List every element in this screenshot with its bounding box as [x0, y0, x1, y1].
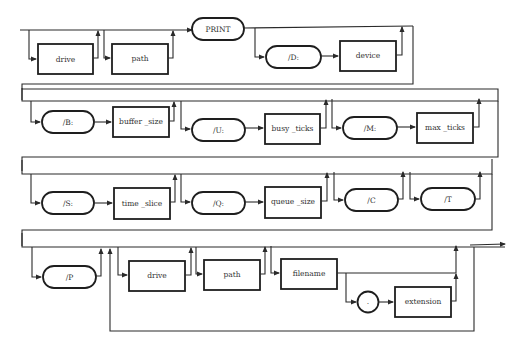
- r4-drive-branch: [118, 247, 127, 275]
- d-branch: [255, 28, 264, 57]
- path-branch: [104, 30, 110, 58]
- extension-label: extension: [405, 297, 442, 306]
- ext-branch: [346, 273, 356, 302]
- t-branch: [410, 172, 419, 199]
- row4-frame-top: [22, 233, 505, 247]
- drive-label: drive: [56, 55, 76, 64]
- filename-branch: [271, 246, 279, 273]
- device-label: device: [356, 51, 381, 60]
- buffer-size-label: buffer _size: [119, 117, 163, 126]
- row-3: /S: time _slice /Q: queue _size /C /T: [22, 159, 492, 246]
- q-switch-label: /Q:: [213, 199, 224, 208]
- time-slice-label: time _slice: [122, 199, 163, 208]
- s-switch-label: /S:: [63, 199, 73, 208]
- path-label: path: [131, 54, 148, 63]
- row2-frame-top: [22, 88, 498, 101]
- p-switch-label: /P: [66, 273, 74, 282]
- row-1: drive path PRINT /D: device: [20, 18, 413, 100]
- b-switch-label: /B:: [63, 118, 74, 127]
- r4-drive-label: drive: [147, 271, 167, 280]
- row3-frame-top: [22, 159, 492, 174]
- max-ticks-label: max _ticks: [425, 123, 465, 132]
- exit-arrow: [470, 244, 505, 245]
- print-syntax-diagram: drive path PRINT /D: device /B: buff: [0, 0, 517, 350]
- row-4: /P drive path filename . extension: [22, 233, 505, 331]
- c-switch-label: /C: [367, 196, 376, 205]
- q-branch: [181, 174, 190, 202]
- busy-ticks-label: busy _ticks: [272, 124, 314, 133]
- r4-path-branch: [196, 247, 202, 274]
- c-return: [398, 172, 403, 199]
- b-branch: [31, 101, 40, 122]
- row-2: /B: buffer _size /U: busy _ticks /M: max…: [22, 88, 498, 171]
- p-branch: [32, 247, 41, 277]
- s-branch: [31, 174, 40, 203]
- line-after-print: [244, 26, 413, 28]
- t-switch-label: /T: [444, 195, 452, 204]
- m-switch-label: /M:: [364, 124, 377, 133]
- drive-branch: [29, 30, 36, 59]
- c-branch: [334, 172, 343, 200]
- r4-path-label: path: [223, 270, 240, 279]
- m-branch: [332, 99, 341, 128]
- u-branch: [181, 101, 190, 129]
- filename-label: filename: [293, 269, 326, 278]
- queue-size-label: queue _size: [271, 197, 316, 206]
- t-return: [475, 172, 480, 199]
- d-switch-label: /D:: [288, 53, 299, 62]
- print-label: PRINT: [205, 25, 230, 34]
- dot-label: .: [367, 297, 369, 306]
- filename-to-exit: [337, 246, 456, 273]
- p-return: [96, 249, 101, 276]
- u-switch-label: /U:: [213, 126, 224, 135]
